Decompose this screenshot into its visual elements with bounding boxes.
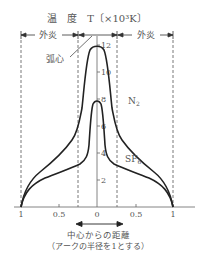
distance-arrow bbox=[76, 222, 123, 227]
y-tick-2: 2 bbox=[101, 176, 106, 185]
x-tick-neg1: 1 bbox=[18, 210, 23, 219]
x-tick-neg05: 0.5 bbox=[53, 210, 66, 219]
y-ticks bbox=[97, 45, 100, 180]
n2-label: N2 bbox=[128, 96, 140, 107]
x-tick-1: 1 bbox=[170, 210, 175, 219]
y-tick-10: 10 bbox=[101, 68, 111, 77]
y-tick-8: 8 bbox=[101, 95, 106, 104]
chart-title: 温 度 T〔×10³K〕 bbox=[47, 12, 146, 24]
arc-core-label: 弧心 bbox=[46, 53, 64, 64]
x-tick-0: 0 bbox=[94, 210, 99, 219]
outer-flame-left-label: 外炎 bbox=[39, 29, 57, 40]
temperature-chart: 温 度 T〔×10³K〕 外炎 外炎 弧心 bbox=[0, 0, 207, 259]
x-axis-caption: 中心からの距離 bbox=[67, 230, 130, 240]
x-tick-05: 0.5 bbox=[130, 210, 143, 219]
outer-flame-right-label: 外炎 bbox=[137, 29, 155, 40]
x-axis-caption-note: （アークの半径を1とする） bbox=[47, 241, 148, 251]
sf6-label: SF6 bbox=[125, 154, 141, 165]
